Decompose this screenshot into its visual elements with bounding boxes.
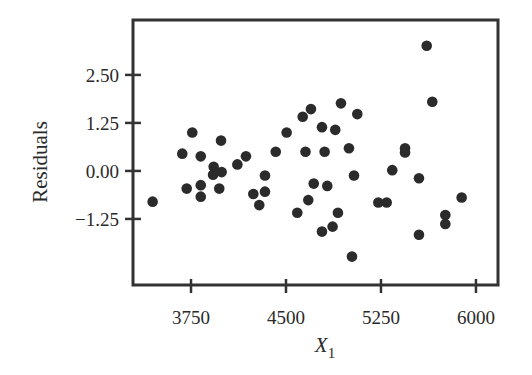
data-point xyxy=(344,143,355,154)
data-point xyxy=(352,109,363,120)
data-point xyxy=(381,197,392,208)
data-point xyxy=(195,180,206,191)
data-point xyxy=(297,111,308,122)
data-point xyxy=(270,146,281,157)
data-point xyxy=(260,170,271,181)
data-point xyxy=(440,219,451,230)
y-tick-label: 2.50 xyxy=(86,65,119,86)
residual-scatter-plot: 3750450052506000 2.501.250.00−1.25 Resid… xyxy=(0,0,532,375)
x-tick-label: 4500 xyxy=(267,307,305,328)
data-point xyxy=(400,147,411,158)
data-point xyxy=(303,195,314,206)
data-point xyxy=(427,97,438,108)
data-point xyxy=(306,104,317,115)
y-tick-label: 1.25 xyxy=(86,113,119,134)
data-point xyxy=(254,200,265,211)
data-point xyxy=(414,173,425,184)
data-point xyxy=(387,165,398,176)
data-point xyxy=(317,122,328,133)
data-points xyxy=(147,40,467,261)
data-point xyxy=(187,127,198,138)
data-point xyxy=(260,186,271,197)
x-tick-label: 6000 xyxy=(457,307,495,328)
data-point xyxy=(216,167,227,178)
data-point xyxy=(327,221,338,232)
data-point xyxy=(308,178,319,189)
data-point xyxy=(241,151,252,162)
data-point xyxy=(216,135,227,146)
data-point xyxy=(317,226,328,237)
data-point xyxy=(195,151,206,162)
data-point xyxy=(333,207,344,218)
x-tick-label: 5250 xyxy=(362,307,400,328)
data-point xyxy=(347,251,358,262)
x-axis-label: X1 xyxy=(314,333,335,361)
data-point xyxy=(147,196,158,207)
data-point xyxy=(248,189,259,200)
data-point xyxy=(195,191,206,202)
y-tick-label: −1.25 xyxy=(75,209,119,230)
y-tick-label: 0.00 xyxy=(86,161,119,182)
data-point xyxy=(177,148,188,159)
data-point xyxy=(232,159,243,170)
data-point xyxy=(456,192,467,203)
data-point xyxy=(330,125,341,136)
data-point xyxy=(421,40,432,51)
data-point xyxy=(319,146,330,157)
data-point xyxy=(214,183,225,194)
data-point xyxy=(414,229,425,240)
data-point xyxy=(322,181,333,192)
plot-frame xyxy=(133,20,498,285)
data-point xyxy=(349,170,360,181)
data-point xyxy=(181,183,192,194)
y-axis-label: Residuals xyxy=(28,121,52,203)
y-axis-ticks: 2.501.250.00−1.25 xyxy=(75,65,141,230)
data-point xyxy=(300,146,311,157)
data-point xyxy=(336,98,347,109)
data-point xyxy=(281,127,292,138)
x-tick-label: 3750 xyxy=(172,307,210,328)
data-point xyxy=(292,207,303,218)
